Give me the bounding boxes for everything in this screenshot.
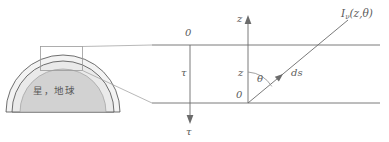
tau-end-label: τ bbox=[186, 127, 192, 137]
connector-line-top bbox=[83, 45, 153, 47]
figure-root: 星，地球 0 τ τ z z 0 θ ds Iν(z,θ) bbox=[0, 0, 389, 142]
theta-label: θ bbox=[257, 74, 263, 84]
ray-line bbox=[248, 20, 348, 103]
z-axis-tip-label: z bbox=[237, 14, 242, 24]
planet-dome-group bbox=[6, 45, 152, 112]
z-origin-label: 0 bbox=[236, 90, 242, 100]
intensity-label: Iν(z,θ) bbox=[341, 8, 373, 20]
diagram-canvas bbox=[0, 0, 389, 142]
z-axis-arrowhead bbox=[245, 15, 252, 24]
tau-zero-label: 0 bbox=[185, 28, 191, 38]
planet-body-label: 星，地球 bbox=[33, 86, 75, 96]
intensity-args: (z,θ) bbox=[350, 7, 373, 19]
tau-mid-label: τ bbox=[181, 68, 187, 78]
ds-label: ds bbox=[291, 68, 303, 78]
z-height-label: z bbox=[238, 68, 243, 78]
tau-axis-arrowhead bbox=[187, 115, 194, 124]
